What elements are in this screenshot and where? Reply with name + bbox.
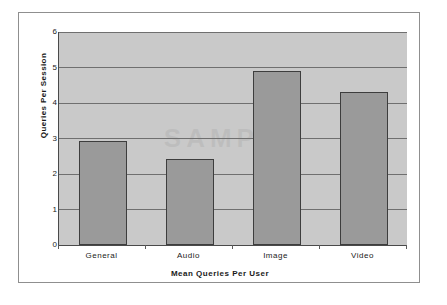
x-axis-tick-mark — [232, 245, 233, 249]
x-axis-title: Mean Queries Per User — [19, 269, 421, 278]
bar-audio — [166, 159, 214, 245]
x-axis-tick-mark — [145, 245, 146, 249]
x-axis-tick-mark — [58, 245, 59, 249]
y-axis-tick-label: 6 — [39, 27, 57, 37]
x-axis-tick-labels: GeneralAudioImageVideo — [58, 251, 407, 265]
y-axis-tick-label: 0 — [39, 240, 57, 250]
x-axis-tick-mark — [406, 245, 407, 249]
y-axis-tick-label: 3 — [39, 134, 57, 144]
y-axis-tick-label: 4 — [39, 98, 57, 108]
x-axis-tick-label: Image — [232, 251, 319, 260]
x-axis-tick-label: Audio — [145, 251, 232, 260]
x-axis-tick-mark — [319, 245, 320, 249]
gridline — [59, 32, 407, 33]
x-axis-tick-label: Video — [319, 251, 406, 260]
chart-figure-frame: Queries Per Session 0123456 SAMPLE Gener… — [18, 12, 420, 283]
bar-general — [79, 141, 127, 245]
y-axis-tick-label: 2 — [39, 169, 57, 179]
y-axis-tick-label: 5 — [39, 63, 57, 73]
bar-image — [253, 71, 301, 245]
y-axis-tick-labels: 0123456 — [39, 32, 57, 245]
y-axis-tick-label: 1 — [39, 205, 57, 215]
x-axis-tick-marks — [58, 245, 407, 250]
gridline — [59, 67, 407, 68]
bar-video — [340, 92, 388, 245]
x-axis-tick-label: General — [58, 251, 145, 260]
plot-area: SAMPLE — [58, 32, 407, 246]
